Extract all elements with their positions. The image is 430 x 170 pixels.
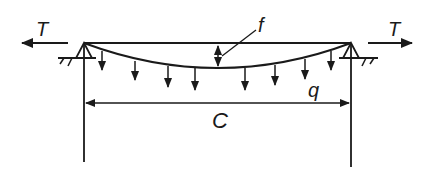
label-load: q (308, 79, 319, 101)
left-support (58, 43, 96, 66)
label-sag: f (258, 14, 266, 36)
label-span: C (212, 108, 228, 133)
label-tension-right: T (388, 18, 402, 40)
distributed-load-arrows (102, 51, 331, 90)
label-tension-left: T (36, 18, 50, 40)
right-support (339, 43, 378, 66)
cable-sag-diagram: T T f q C (0, 0, 430, 170)
diagram-canvas: T T f q C (0, 0, 430, 170)
